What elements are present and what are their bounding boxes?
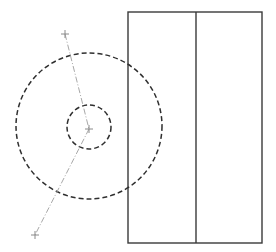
outer-rectangle [128, 12, 262, 243]
upper-guide-line [65, 34, 89, 129]
diagram-canvas [0, 0, 276, 252]
center-crosshair-icon [85, 125, 93, 133]
guide-lines [35, 34, 89, 235]
rectangle-group [128, 12, 262, 243]
crosshair-markers [31, 30, 93, 239]
bottom-crosshair-icon [31, 231, 39, 239]
top-crosshair-icon [61, 30, 69, 38]
